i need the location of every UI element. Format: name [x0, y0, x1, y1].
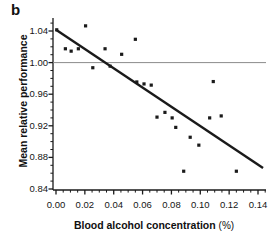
- regression-trend-line: [56, 30, 263, 168]
- data-point: [103, 47, 106, 50]
- data-point: [150, 84, 153, 87]
- x-axis-title: Blood alcohol concentration (%): [40, 219, 268, 231]
- y-tick-label: 1.00: [18, 58, 48, 68]
- data-point: [189, 136, 192, 139]
- x-tick-label: 0.06: [127, 199, 159, 210]
- x-tick-label: 0.04: [98, 199, 130, 210]
- data-point: [174, 126, 177, 129]
- x-tick-label: 0.12: [213, 199, 245, 210]
- x-tick-label: 0.10: [184, 199, 216, 210]
- x-axis-unit: (%): [219, 220, 235, 231]
- data-point: [109, 65, 112, 68]
- x-tick-label: 0.00: [40, 199, 72, 210]
- y-tick-label: 0.92: [18, 121, 48, 131]
- data-point: [70, 50, 73, 53]
- data-point: [155, 116, 158, 119]
- axes-layer: [49, 18, 267, 195]
- trend-line-layer: [56, 30, 263, 168]
- data-point: [134, 38, 137, 41]
- x-tick-label: 0.14: [242, 199, 271, 210]
- x-axis-title-text: Blood alcohol concentration: [74, 219, 216, 231]
- data-point: [135, 80, 138, 83]
- data-point: [220, 114, 223, 117]
- data-point: [84, 24, 87, 27]
- data-point: [142, 82, 145, 85]
- data-point: [120, 53, 123, 56]
- y-tick-label: 0.84: [18, 184, 48, 194]
- y-tick-label: 1.04: [18, 26, 48, 36]
- data-point: [171, 116, 174, 119]
- data-point: [235, 170, 238, 173]
- x-tick-label: 0.02: [69, 199, 101, 210]
- data-point: [55, 28, 58, 31]
- data-point: [212, 80, 215, 83]
- y-tick-label: 0.96: [18, 89, 48, 99]
- data-point: [208, 116, 211, 119]
- x-tick-label: 0.08: [155, 199, 187, 210]
- data-point: [197, 144, 200, 147]
- data-point: [64, 47, 67, 50]
- data-point: [182, 170, 185, 173]
- y-tick-label: 0.88: [18, 152, 48, 162]
- data-point: [163, 111, 166, 114]
- data-point: [91, 66, 94, 69]
- figure-panel-b: b Mean relative performance Blood alcoho…: [0, 0, 271, 239]
- data-point: [77, 47, 80, 50]
